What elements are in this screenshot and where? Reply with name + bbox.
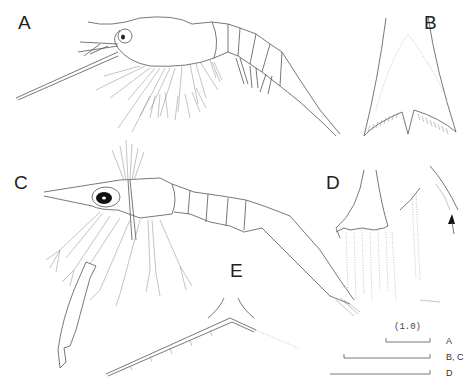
panel-label-c: C [14, 172, 28, 194]
larva-c-drawing [44, 140, 360, 368]
scale-label-bc: B, C [446, 352, 464, 362]
scale-note: (1.0) [394, 322, 421, 332]
larva-a-drawing [16, 17, 340, 136]
panel-label-a: A [18, 12, 31, 34]
scale-label-d: D [446, 368, 453, 378]
panel-label-d: D [326, 172, 340, 194]
scale-bars [330, 338, 430, 374]
figure: A B C D E (1.0) A B, C D [0, 0, 476, 384]
scale-label-a: A [446, 336, 452, 346]
spine-e-drawing [106, 298, 298, 376]
telson-b-drawing [364, 16, 456, 136]
panel-label-e: E [230, 260, 243, 282]
panel-label-b: B [424, 12, 437, 34]
telson-d-drawing [336, 166, 458, 302]
